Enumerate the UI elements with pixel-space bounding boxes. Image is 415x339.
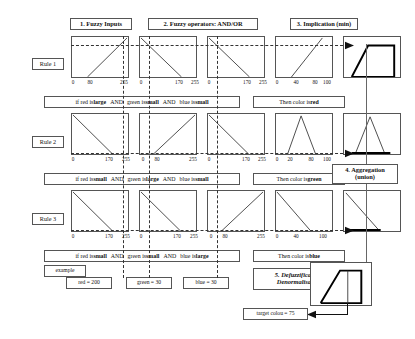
header-step-1: 1. Fuzzy Inputs [70,18,132,30]
header-step-4: 4. Aggregation (union) [332,164,398,184]
example-green-box: green = 30 [126,277,172,289]
rule-2-output-axis: 0 20 80 100 [275,156,333,164]
crisp-input-red-line [123,36,124,278]
rule-3-activation-arrow-icon [344,226,354,235]
rule-3-input-blue-plot [207,190,265,232]
rule-3-input-blue-axis: 0 80 255 [207,233,265,241]
header-step-3-label: 3. Implication (min) [297,21,352,28]
rule-2-input-red-plot [71,113,129,155]
rule-1-input-green-axis: 0 170 255 [139,79,197,87]
rule-3-input-green-plot [139,190,197,232]
rule-3-con-pre: Then color is [278,253,309,259]
rule-2-label-text: Rule 2 [40,139,56,146]
rule-1-ant-term1: large [93,99,106,105]
rule-3-ant-term1: small [93,253,106,259]
rule-2-input-red-axis: 0 170 255 [71,156,129,164]
example-blue-value: blue = 30 [195,280,216,286]
rule-2-input-green-axis: 0 80 255 [139,156,197,164]
rule-2-ant-pre1: if red is [75,176,93,182]
rule-3-input-green-axis: 0 170 255 [139,233,197,241]
rule-1-consequent: Then color is red [253,96,345,108]
rule-1-input-red-axis: 0 80 255 [71,79,129,87]
aggregation-spine [366,44,367,164]
rule-2-con-pre: Then color is [276,176,307,182]
example-green-value: green = 30 [137,280,161,286]
rule-3-ant-pre2: green is [128,253,146,259]
rule-1-ant-pre2: green is [127,99,145,105]
rule-2-ant-term1: small [93,176,106,182]
rule-2-ant-pre2: green is [128,176,146,182]
rule-2-input-green-plot [139,113,197,155]
rule-2-ant-term2: large [146,176,159,182]
crisp-input-blue-line [217,36,218,278]
header-step-2: 2. Fuzzy operators: AND/OR [148,18,258,30]
rule-1-input-green-plot [139,36,197,78]
rule-2-con-term: green [308,176,322,182]
aggregation-spine-lower [366,184,367,268]
header-step-4-line2: (union) [355,174,375,181]
rule-1-ant-term2: small [145,99,158,105]
rule-1-input-blue-axis: 0 170 255 [207,79,265,87]
rule-3-output-plot [275,190,333,232]
rule-3-consequent: Then color is blue [253,250,345,262]
example-label-box: example [44,265,86,277]
example-red-value: red = 200 [78,280,100,286]
rule-1-label: Rule 1 [32,58,64,70]
rule-1-label-text: Rule 1 [40,61,56,68]
rule-3-ant-op1: AND [107,253,128,259]
rule-2-input-blue-axis: 0 170 255 [207,156,265,164]
rule-2-ant-pre3: blue is [180,176,196,182]
example-blue-box: blue = 30 [183,277,229,289]
rule-2-output-plot [275,113,333,155]
rule-3-antecedent: if red is small AND green is small AND b… [44,250,240,262]
rule-1-activation-line [71,45,348,46]
rule-3-input-red-plot [71,190,129,232]
rule-3-ant-pre3: blue is [180,253,196,259]
rule-1-output-axis: 0 40 80 100 [275,79,333,87]
rule-1-antecedent: if red is large AND green is small AND b… [44,96,240,108]
rule-1-con-pre: Then color is [279,99,310,105]
rule-3-label-text: Rule 3 [40,216,56,223]
header-step-3: 3. Implication (min) [290,18,358,30]
rule-1-input-red-plot [71,36,129,78]
rule-3-label: Rule 3 [32,213,64,225]
rule-3-ant-pre1: if red is [75,253,93,259]
rule-3-con-term: blue [309,253,320,259]
target-colour-result: target colou = 75 [243,308,308,320]
rule-1-ant-op2: AND [159,99,180,105]
crisp-input-green-line [149,36,150,278]
rule-1-ant-term3: small [195,99,208,105]
rule-2-ant-op2: AND [159,176,180,182]
rule-3-input-red-axis: 0 170 255 [71,233,129,241]
rule-1-con-term: red [310,99,318,105]
header-step-2-label: 2. Fuzzy operators: AND/OR [163,21,242,28]
rule-2-label: Rule 2 [32,136,64,148]
rule-3-output-axis: 0 40 100 [275,233,333,241]
aggregated-output-plot [310,262,372,306]
rule-2-activation-arrow-icon [344,149,354,158]
rule-2-activation-line [71,153,348,154]
target-colour-value: target colou = 75 [256,311,294,317]
header-step-1-label: 1. Fuzzy Inputs [80,21,122,28]
rule-3-ant-op2: AND [160,253,181,259]
example-label-text: example [56,268,75,274]
result-arrow-icon [307,310,317,319]
rule-1-activation-arrow-icon [344,41,354,50]
example-red-box: red = 200 [66,277,112,289]
rule-2-ant-op1: AND [107,176,128,182]
rule-1-input-blue-plot [207,36,265,78]
rule-2-ant-term3: small [195,176,208,182]
rule-1-ant-pre1: if red is [75,99,93,105]
rule-2-antecedent: if red is small AND green is large AND b… [44,173,240,185]
rule-3-ant-term3: large [196,253,209,259]
rule-3-activation-line [71,230,348,231]
rule-1-output-plot [275,36,333,78]
result-connector-horizontal [315,314,348,315]
rule-1-ant-pre3: blue is [180,99,196,105]
rule-2-input-blue-plot [207,113,265,155]
